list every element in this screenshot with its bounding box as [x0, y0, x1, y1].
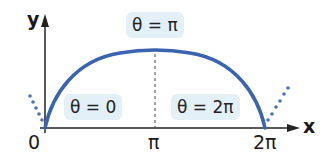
- annotation-theta-0: θ = 0: [64, 94, 122, 120]
- y-axis-label: y: [27, 8, 39, 30]
- dotted-continuation-right: [266, 86, 290, 122]
- dotted-continuation-left: [28, 94, 44, 122]
- annotation-theta-2pi: θ = 2π: [171, 94, 240, 120]
- x-axis-arrow-icon: [287, 124, 300, 132]
- annotation-theta-pi: θ = π: [126, 12, 184, 38]
- origin-label: 0: [28, 131, 40, 153]
- tick-label-2pi: 2π: [253, 131, 277, 153]
- tick-label-pi: π: [148, 131, 159, 153]
- x-axis-label: x: [303, 115, 315, 137]
- y-axis-arrow-icon: [41, 14, 49, 27]
